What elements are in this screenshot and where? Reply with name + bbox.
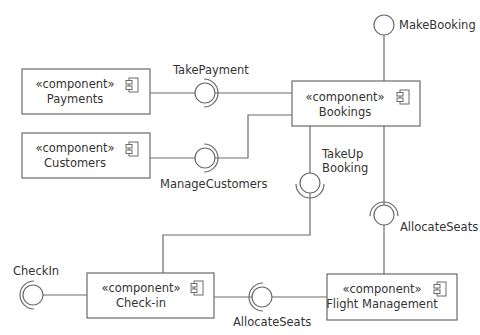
managecustomers-connector	[215, 115, 292, 158]
makebooking-label: MakeBooking	[399, 18, 476, 32]
component-name: Customers	[44, 156, 106, 170]
checkin-interface-icon[interactable]	[20, 281, 43, 309]
component-name: Check-in	[116, 296, 166, 310]
component-flight-management[interactable]: «component» Flight Management	[326, 274, 457, 320]
checkin-label: CheckIn	[13, 264, 59, 278]
component-checkin[interactable]: «component» Check-in	[87, 273, 214, 318]
allocateseats-horizontal-interface-icon[interactable]	[249, 283, 272, 311]
stereotype-label: «component»	[342, 282, 421, 296]
component-name: Payments	[47, 92, 103, 106]
makebooking-interface-icon[interactable]	[374, 15, 394, 35]
component-bookings[interactable]: «component» Bookings	[292, 81, 420, 126]
stereotype-label: «component»	[35, 77, 114, 91]
component-customers[interactable]: «component» Customers	[22, 133, 150, 178]
component-name: Flight Management	[326, 297, 438, 311]
stereotype-label: «component»	[35, 141, 114, 155]
takeupbooking-label-line1: TakeUp	[321, 147, 363, 161]
allocateseats-vertical-interface-icon[interactable]	[370, 202, 398, 225]
takeup-checkin-connector	[163, 193, 310, 273]
stereotype-label: «component»	[305, 90, 384, 104]
takepayment-interface-icon[interactable]	[195, 79, 218, 107]
managecustomers-label: ManageCustomers	[160, 177, 268, 191]
component-name: Bookings	[319, 105, 371, 119]
takepayment-label: TakePayment	[172, 63, 249, 77]
component-payments[interactable]: «component» Payments	[22, 69, 150, 114]
component-diagram: MakeBooking TakePayment ManageCustomers …	[0, 0, 480, 335]
allocateseats-vertical-label: AllocateSeats	[400, 220, 478, 234]
managecustomers-interface-icon[interactable]	[195, 144, 218, 172]
takeupbooking-label-line2: Booking	[322, 161, 368, 175]
allocateseats-horizontal-label: AllocateSeats	[233, 315, 311, 329]
stereotype-label: «component»	[101, 281, 180, 295]
